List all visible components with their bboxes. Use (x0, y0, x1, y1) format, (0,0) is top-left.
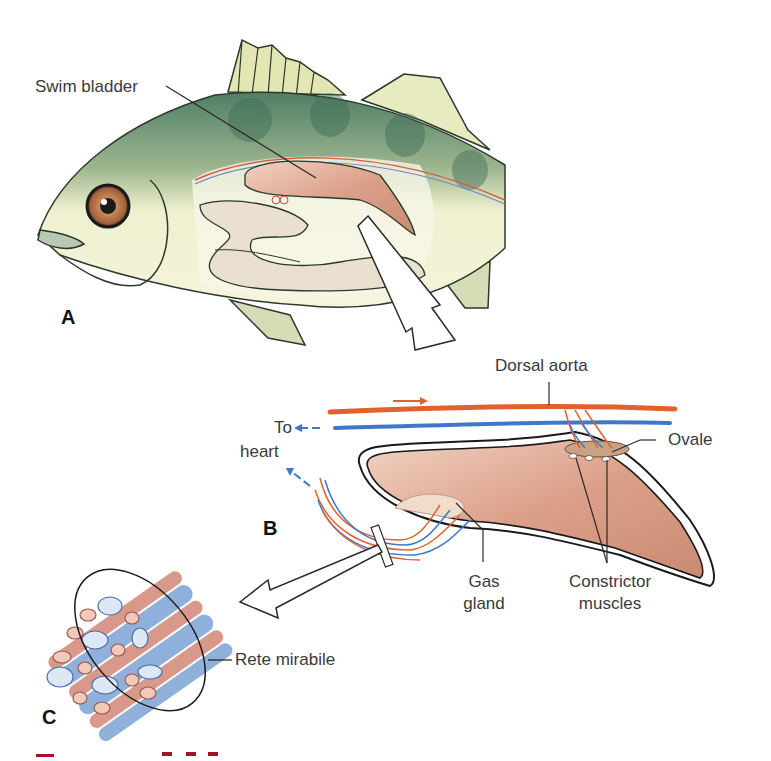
figure-caption-cropped (36, 748, 256, 761)
label-constrictor-line2: muscles (560, 594, 660, 614)
enlarge-arrow-icon (240, 545, 382, 618)
label-constrictor-line1: Constrictor (560, 572, 660, 592)
swim-bladder-detail (286, 382, 714, 586)
label-to-heart-line1: To (266, 418, 300, 438)
label-swim-bladder: Swim bladder (35, 77, 138, 97)
panel-label-a: A (61, 306, 75, 329)
label-ovale: Ovale (668, 430, 712, 450)
label-rete-mirabile: Rete mirabile (235, 650, 335, 670)
label-to-heart-line2: heart (240, 442, 279, 462)
label-dorsal-aorta: Dorsal aorta (495, 356, 588, 376)
rete-mirabile-bundle (46, 545, 236, 744)
panel-label-c: C (42, 706, 56, 729)
label-gas-gland-line1: Gas (458, 572, 510, 592)
label-gas-gland-line2: gland (458, 594, 510, 614)
panel-label-b: B (263, 517, 277, 540)
